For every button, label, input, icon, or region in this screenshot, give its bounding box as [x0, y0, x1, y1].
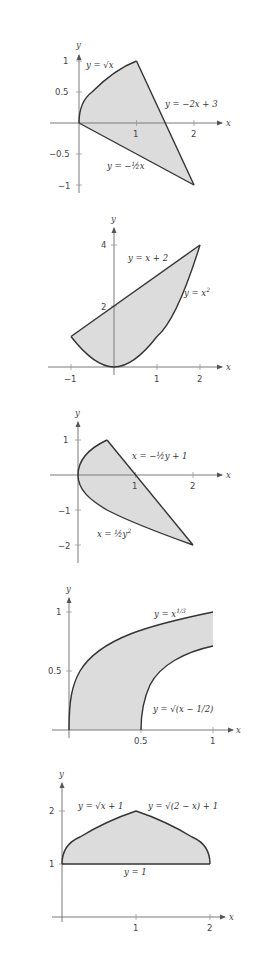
tick-label: −1: [64, 374, 77, 384]
graph-1: x y 1 2 1 0.5 −0.5 −1 y = √x y = −2x + 3…: [49, 40, 231, 193]
tick-label: 1: [132, 481, 137, 491]
tick-label: 1: [133, 923, 138, 933]
tick-label: 1: [49, 859, 54, 869]
tick-label: 2: [207, 923, 212, 933]
equation-label-bottom: y = 1: [123, 867, 147, 877]
tick-label: 2: [197, 374, 202, 384]
equation-label-right: y = √(2 − x) + 1: [147, 801, 218, 811]
tick-label: 1: [133, 129, 138, 139]
tick-label: −1: [58, 506, 71, 516]
tick-label: 0.5: [134, 736, 148, 746]
y-axis-label: y: [65, 584, 71, 594]
tick-label: 1: [210, 736, 215, 746]
equation-label-parabola: x = ½y2: [97, 527, 131, 539]
tick-label: −2: [58, 541, 71, 551]
figure-canvas: x y 1 2 1 0.5 −0.5 −1 y = √x y = −2x + 3…: [0, 0, 256, 965]
equation-label-sqrt: y = √(x − 1/2): [152, 704, 213, 714]
equation-label-sqrt: y = √x: [85, 60, 114, 70]
tick-label: 1: [63, 56, 68, 66]
y-axis-label: y: [74, 408, 80, 418]
equation-label-left: y = √x + 1: [77, 801, 123, 811]
shaded-region-5: [62, 811, 210, 864]
shaded-region-2: [71, 245, 200, 367]
graph-5: x y 1 2 1 2 y = √x + 1 y = √(2 − x) + 1 …: [49, 769, 234, 933]
x-axis-label: x: [229, 912, 234, 922]
equation-label-line: x = −½y + 1: [132, 451, 187, 461]
tick-label: 0.5: [55, 87, 69, 97]
y-axis-label: y: [58, 769, 64, 779]
equation-label-line: y = −2x + 3: [164, 99, 218, 109]
x-axis-label: x: [236, 725, 241, 735]
tick-label: 1: [154, 374, 159, 384]
y-axis-label: y: [75, 40, 81, 50]
tick-label: 2: [101, 302, 106, 312]
tick-label: −0.5: [49, 149, 70, 159]
graph-4: x y 0.5 1 0.5 1 y = x1/3 y = √(x − 1/2): [48, 584, 241, 746]
tick-label: 4: [101, 240, 106, 250]
equation-label-half: y = −½x: [106, 161, 145, 171]
graph-3: x y 1 2 1 −1 −2 x = −½y + 1 x = ½y2: [50, 408, 231, 563]
tick-label: −1: [58, 181, 71, 191]
tick-label: 2: [190, 481, 195, 491]
graph-2: x y −1 1 2 2 4 y = x + 2 y = x2: [48, 214, 231, 384]
equation-label-parabola: y = x2: [183, 286, 210, 298]
tick-label: 2: [191, 129, 196, 139]
equation-label-cube-root: y = x1/3: [153, 607, 186, 619]
tick-label: 2: [49, 806, 54, 816]
x-axis-label: x: [226, 362, 231, 372]
x-axis-label: x: [226, 470, 231, 480]
equation-label-line: y = x + 2: [127, 253, 168, 263]
tick-label: 1: [63, 435, 68, 445]
tick-label: 0.5: [48, 666, 62, 676]
tick-label: 1: [56, 607, 61, 617]
x-axis-label: x: [226, 118, 231, 128]
y-axis-label: y: [110, 214, 116, 224]
